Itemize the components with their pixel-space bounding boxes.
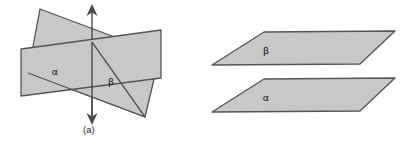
label-beta: β <box>263 45 269 56</box>
panel-a-diagram: α β <box>0 0 190 147</box>
panel-b-diagram: β α <box>190 0 418 147</box>
label-alpha: α <box>263 92 269 103</box>
panel-a: α β (a) <box>0 0 190 147</box>
plane-beta-shape <box>212 31 395 65</box>
panel-a-caption: (a) <box>83 124 95 135</box>
geometry-figure: α β (a) β α (b) <box>0 0 418 147</box>
plane-alpha-shape <box>212 78 395 112</box>
label-beta: β <box>108 76 114 87</box>
label-alpha: α <box>52 66 58 77</box>
panel-b: β α (b) <box>190 0 418 147</box>
